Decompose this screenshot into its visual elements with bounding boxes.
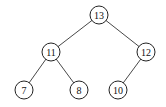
node-label: 12: [141, 47, 151, 58]
node-label: 10: [113, 85, 123, 96]
node-label: 7: [22, 85, 27, 96]
node-left-left: 7: [15, 81, 33, 99]
node-label: 8: [77, 85, 82, 96]
node-label: 11: [46, 47, 56, 58]
node-left: 11: [42, 43, 60, 61]
node-right: 12: [137, 43, 155, 61]
node-label: 13: [94, 10, 104, 21]
node-left-right: 8: [70, 81, 88, 99]
node-root: 13: [90, 6, 108, 24]
node-right-left: 10: [109, 81, 127, 99]
binary-tree-diagram: 13 11 12 7 8 10: [0, 0, 166, 107]
